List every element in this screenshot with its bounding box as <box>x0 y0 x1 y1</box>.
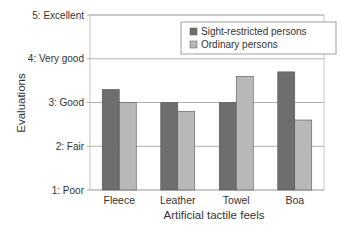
y-tick-label: 2: Fair <box>56 141 85 152</box>
bar-fleece-sight-restricted <box>102 89 119 190</box>
x-tick-label: Towel <box>223 194 250 206</box>
legend: Sight-restricted personsOrdinary persons <box>181 22 336 54</box>
bar-fleece-ordinary <box>119 103 136 191</box>
bar-leather-sight-restricted <box>161 103 178 191</box>
legend-label: Ordinary persons <box>201 39 278 50</box>
y-tick-label: 4: Very good <box>28 53 84 64</box>
bar-boa-sight-restricted <box>278 72 295 190</box>
y-tick-label: 1: Poor <box>52 185 85 196</box>
bar-boa-ordinary <box>295 120 312 190</box>
bar-towel-ordinary <box>236 76 253 190</box>
y-tick-label: 3: Good <box>48 97 84 108</box>
bar-towel-sight-restricted <box>219 103 236 191</box>
y-axis-ticks: 1: Poor2: Fair3: Good4: Very good5: Exce… <box>28 10 90 196</box>
y-tick-label: 5: Excellent <box>32 10 84 21</box>
x-axis-categories: FleeceLeatherTowelBoa <box>103 194 304 206</box>
y-axis-title: Evaluations <box>15 73 27 133</box>
legend-label: Sight-restricted persons <box>201 26 307 37</box>
bar-leather-ordinary <box>178 111 195 190</box>
x-tick-label: Boa <box>285 194 304 206</box>
bar-chart: 1: Poor2: Fair3: Good4: Very good5: Exce… <box>0 0 341 233</box>
x-tick-label: Fleece <box>103 194 135 206</box>
legend-swatch <box>190 41 197 48</box>
legend-swatch <box>190 28 197 35</box>
x-axis-title: Artificial tactile feels <box>164 209 265 221</box>
x-tick-label: Leather <box>160 194 196 206</box>
